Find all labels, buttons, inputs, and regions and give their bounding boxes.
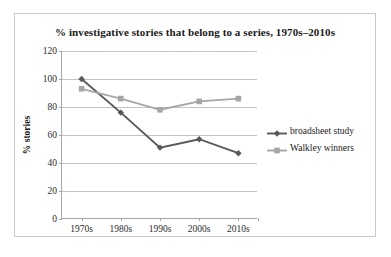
data-point-marker xyxy=(235,150,241,156)
y-axis-tick-mark xyxy=(59,219,62,220)
legend-label: Walkley winners xyxy=(290,143,354,153)
x-axis-tick-label: 1970s xyxy=(70,224,93,234)
x-axis-tick-mark xyxy=(258,218,259,221)
data-point-marker xyxy=(196,99,202,105)
plot-area: 020406080100120 1970s1980s1990s2000s2010… xyxy=(61,51,257,219)
y-axis-tick-label: 40 xyxy=(48,158,58,168)
data-point-marker xyxy=(157,107,163,113)
x-axis-tick-label: 1980s xyxy=(109,224,132,234)
chart-legend: broadsheet studyWalkley winners xyxy=(267,122,371,156)
data-point-marker xyxy=(79,86,85,92)
legend-diamond-marker-icon xyxy=(267,125,287,136)
y-axis-tick-label: 20 xyxy=(48,186,58,196)
data-point-marker xyxy=(196,136,202,142)
data-point-marker xyxy=(236,96,242,102)
y-axis-tick-label: 80 xyxy=(48,102,58,112)
y-axis-tick-label: 100 xyxy=(43,74,57,84)
legend-label: broadsheet study xyxy=(290,126,354,136)
y-axis-tick-label: 0 xyxy=(52,214,57,224)
x-axis-tick-label: 1990s xyxy=(149,224,172,234)
series-plot xyxy=(62,51,258,219)
data-point-marker xyxy=(118,96,124,102)
y-axis-tick-label: 60 xyxy=(48,130,58,140)
y-axis-title: % stories xyxy=(22,116,32,154)
legend-square-marker-icon xyxy=(267,142,287,153)
y-axis-tick-label: 120 xyxy=(43,46,57,56)
legend-item[interactable]: broadsheet study xyxy=(267,122,371,139)
x-axis-tick-label: 2010s xyxy=(227,224,250,234)
series-line xyxy=(82,79,239,153)
chart-container: % investigative stories that belong to a… xyxy=(14,13,376,237)
x-axis-tick-label: 2000s xyxy=(188,224,211,234)
legend-item[interactable]: Walkley winners xyxy=(267,139,371,156)
